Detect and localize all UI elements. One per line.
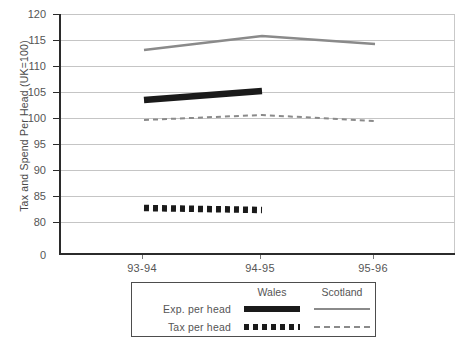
y-tick-label-115: 115 <box>0 34 46 46</box>
legend-swatch-scotland-tax <box>307 326 377 328</box>
y-tick-label-105: 105 <box>0 86 46 98</box>
x-tick-label-94-95: 94-95 <box>220 262 300 274</box>
y-tick-label-85: 85 <box>0 190 46 202</box>
legend-row-label-tax-per-head: Tax per head <box>132 321 237 333</box>
x-tick-label-93-94: 93-94 <box>102 262 182 274</box>
chart-legend: Wales Scotland Exp. per head Tax per hea… <box>131 282 376 337</box>
legend-swatch-wales-exp <box>237 306 307 312</box>
legend-swatch-wales-tax <box>237 324 307 330</box>
y-tick-label-120: 120 <box>0 8 46 20</box>
x-tick-mark-94-95 <box>260 255 261 259</box>
series-scotland-tax-per-head <box>144 115 375 121</box>
chart-figure: Tax and Spend Per Head (UK=100) 120 115 … <box>0 0 465 347</box>
x-tick-label-95-96: 95-96 <box>333 262 413 274</box>
legend-row-label-exp-per-head: Exp. per head <box>132 303 237 315</box>
x-tick-mark-95-96 <box>373 255 374 259</box>
series-layer <box>61 14 457 255</box>
series-wales-tax-per-head <box>144 208 262 210</box>
series-scotland-exp-per-head <box>144 36 375 50</box>
legend-column-header-wales: Wales <box>237 286 307 298</box>
x-tick-mark-93-94 <box>142 255 143 259</box>
y-tick-label-95: 95 <box>0 138 46 150</box>
series-wales-exp-per-head <box>144 91 262 100</box>
legend-column-header-scotland: Scotland <box>307 286 377 298</box>
y-tick-label-100: 100 <box>0 112 46 124</box>
y-tick-label-90: 90 <box>0 164 46 176</box>
y-tick-label-0: 0 <box>0 249 46 261</box>
y-tick-label-110: 110 <box>0 60 46 72</box>
plot-area <box>59 14 455 255</box>
legend-swatch-scotland-exp <box>307 308 377 310</box>
y-tick-label-80: 80 <box>0 216 46 228</box>
